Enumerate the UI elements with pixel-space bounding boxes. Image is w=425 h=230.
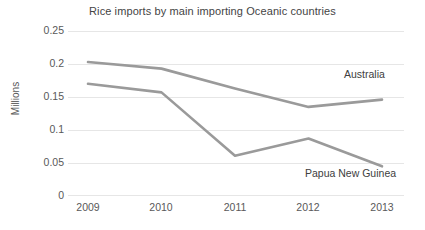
- x-tick-label-2012: 2012: [278, 201, 338, 213]
- y-tick-label-0.1: 0.1: [20, 124, 64, 135]
- y-tick-label-0.2: 0.2: [20, 58, 64, 69]
- line-series-australia: [88, 62, 382, 107]
- y-tick-label-0.25: 0.25: [20, 25, 64, 36]
- x-tick-label-2010: 2010: [131, 201, 191, 213]
- x-axis-tick-labels: 2009 2010 2011 2012 2013: [68, 201, 404, 219]
- y-tick-label-0.05: 0.05: [20, 157, 64, 168]
- line-series-papua-new-guinea: [88, 84, 382, 167]
- series-label-papua-new-guinea: Papua New Guinea: [305, 167, 396, 179]
- x-tick-label-2011: 2011: [205, 201, 265, 213]
- x-tick-label-2013: 2013: [352, 201, 412, 213]
- y-axis-tick-labels: 0.25 0.2 0.15 0.1 0.05 0: [12, 0, 64, 230]
- x-tick-label-2009: 2009: [58, 201, 118, 213]
- line-chart: Rice imports by main importing Oceanic c…: [0, 0, 425, 230]
- y-tick-label-0: 0: [20, 190, 64, 201]
- y-tick-label-0.15: 0.15: [20, 91, 64, 102]
- series-label-australia: Australia: [344, 68, 385, 80]
